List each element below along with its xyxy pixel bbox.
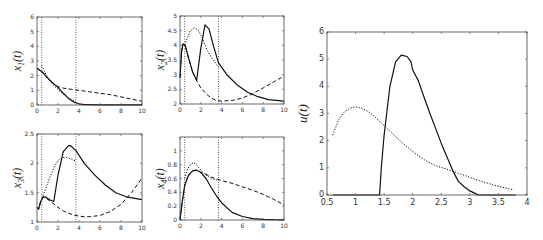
y-axis-label: x3(t) bbox=[10, 168, 26, 190]
x-tick-label: 3 bbox=[467, 198, 472, 207]
series-dotted bbox=[333, 107, 513, 190]
series-dotted bbox=[42, 65, 76, 102]
x-tick-label: 1.5 bbox=[378, 198, 391, 207]
y-tick-label: 2 bbox=[319, 136, 324, 145]
x-tick-label: 2 bbox=[410, 198, 415, 207]
x-tick-label: 2 bbox=[56, 224, 60, 231]
x-tick-label: 3.5 bbox=[492, 198, 505, 207]
y-tick-label: 2 bbox=[173, 100, 177, 107]
axes-box bbox=[37, 134, 142, 222]
series-solid bbox=[180, 25, 284, 101]
y-tick-label: 2.5 bbox=[24, 130, 34, 137]
axes-box bbox=[327, 32, 527, 195]
x-tick-label: 0.5 bbox=[321, 198, 334, 207]
y-tick-label: 0 bbox=[319, 190, 324, 199]
y-axis-label: x4(t) bbox=[153, 168, 169, 190]
x-tick-label: 8 bbox=[119, 224, 123, 231]
x-tick-label: 1 bbox=[353, 198, 358, 207]
x-tick-label: 6 bbox=[98, 224, 102, 231]
x-tick-label: 2 bbox=[199, 222, 203, 229]
series-dashed bbox=[180, 44, 284, 101]
series-dashed bbox=[37, 68, 142, 101]
x-tick-label: 2 bbox=[56, 107, 60, 114]
y-tick-label: 4 bbox=[30, 42, 34, 49]
series-solid bbox=[333, 55, 516, 195]
y-tick-label: 2 bbox=[30, 72, 34, 79]
x-tick-label: 10 bbox=[138, 107, 146, 114]
x-tick-label: 4 bbox=[220, 106, 224, 113]
x-tick-label: 4 bbox=[77, 107, 81, 114]
y-tick-label: 4.5 bbox=[167, 27, 177, 34]
x-tick-label: 8 bbox=[261, 106, 265, 113]
y-tick-label: 5 bbox=[173, 12, 177, 19]
y-tick-label: 5 bbox=[30, 28, 34, 35]
x-tick-label: 2 bbox=[199, 106, 203, 113]
figure: 02468100123456x1(t)024681022.533.544.55x… bbox=[0, 0, 543, 240]
y-tick-label: 2.5 bbox=[167, 85, 177, 92]
y-tick-label: 0.2 bbox=[167, 202, 177, 209]
x-tick-label: 6 bbox=[98, 107, 102, 114]
y-tick-label: 3 bbox=[173, 71, 177, 78]
y-tick-label: 1 bbox=[30, 218, 34, 225]
y-tick-label: 1 bbox=[319, 163, 324, 172]
y-tick-label: 1.5 bbox=[24, 189, 34, 196]
y-tick-label: 6 bbox=[30, 13, 34, 20]
x-tick-label: 4 bbox=[524, 198, 529, 207]
axes-box bbox=[180, 137, 284, 220]
y-tick-label: 3 bbox=[319, 109, 324, 118]
y-tick-label: 0 bbox=[173, 216, 177, 223]
plot-u: 0.511.522.533.540123456u(t) bbox=[295, 27, 530, 207]
y-tick-label: 3 bbox=[30, 57, 34, 64]
x-tick-label: 4 bbox=[77, 224, 81, 231]
x-tick-label: 4 bbox=[220, 222, 224, 229]
x-tick-label: 8 bbox=[261, 222, 265, 229]
plot-x1: 02468100123456x1(t) bbox=[10, 13, 146, 114]
x-tick-label: 6 bbox=[240, 106, 244, 113]
x-tick-label: 10 bbox=[280, 106, 288, 113]
y-tick-label: 4 bbox=[173, 41, 177, 48]
series-solid bbox=[37, 146, 142, 209]
y-tick-label: 0.4 bbox=[167, 188, 177, 195]
x-tick-label: 8 bbox=[119, 107, 123, 114]
x-tick-label: 0 bbox=[35, 107, 39, 114]
axes-box bbox=[180, 16, 284, 104]
x-tick-label: 10 bbox=[280, 222, 288, 229]
x-tick-label: 6 bbox=[240, 222, 244, 229]
x-tick-label: 0 bbox=[178, 106, 182, 113]
y-axis-label: x2(t) bbox=[153, 50, 169, 72]
y-tick-label: 5 bbox=[319, 54, 324, 63]
y-tick-label: 2 bbox=[30, 159, 34, 166]
plot-x3: 024681011.522.5x3(t) bbox=[10, 130, 146, 231]
series-solid bbox=[180, 170, 284, 220]
y-tick-label: 1 bbox=[173, 147, 177, 154]
plot-x2: 024681022.533.544.55x2(t) bbox=[153, 12, 288, 113]
y-axis-label: x1(t) bbox=[10, 51, 26, 73]
series-solid bbox=[37, 68, 142, 105]
x-tick-label: 2.5 bbox=[435, 198, 448, 207]
x-tick-label: 0 bbox=[178, 222, 182, 229]
x-tick-label: 10 bbox=[138, 224, 146, 231]
plot-x4: 024681000.20.40.60.81x4(t) bbox=[153, 137, 288, 229]
y-tick-label: 4 bbox=[319, 81, 324, 90]
y-axis-label: u(t) bbox=[295, 104, 310, 123]
y-tick-label: 1 bbox=[30, 86, 34, 93]
x-tick-label: 0 bbox=[35, 224, 39, 231]
y-tick-label: 0.8 bbox=[167, 161, 177, 168]
series-dotted bbox=[42, 158, 76, 199]
y-tick-label: 6 bbox=[319, 27, 324, 36]
y-tick-label: 0 bbox=[30, 101, 34, 108]
